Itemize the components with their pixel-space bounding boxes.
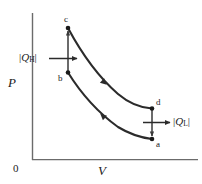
curve-c-to-d (68, 28, 152, 109)
x-axis-label: V (98, 164, 106, 177)
point-label-c: c (64, 15, 68, 24)
point-label-a: a (156, 140, 160, 149)
origin-label: 0 (13, 163, 19, 174)
point-label-d: d (156, 98, 161, 107)
y-axis-label: P (8, 76, 16, 89)
point-label-b: b (58, 74, 63, 83)
pv-diagram-figure: P V 0 c b d a |QH| |QL| (0, 0, 202, 184)
heat-in-label: |QH| (19, 52, 37, 64)
curves-group (68, 28, 152, 139)
heat-out-label: |QL| (173, 116, 190, 128)
qh-bar-right: | (35, 51, 37, 63)
point-c-dot (66, 26, 71, 31)
axes-group (32, 13, 198, 160)
ql-symbol: Q (175, 115, 183, 127)
ql-bar-right: | (188, 115, 190, 127)
point-b-dot (66, 70, 71, 75)
point-d-dot (150, 106, 155, 111)
pv-diagram-svg (0, 0, 202, 184)
state-points-group (66, 26, 155, 142)
qh-symbol: Q (21, 51, 29, 63)
point-a-dot (150, 137, 155, 142)
